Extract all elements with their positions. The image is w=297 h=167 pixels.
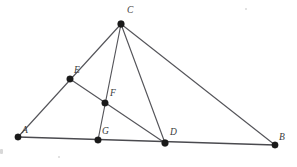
vertex-dot-a <box>15 134 21 140</box>
segment-ab <box>18 137 275 145</box>
vertex-label-d: D <box>170 128 177 138</box>
vertex-dots-group <box>15 21 278 149</box>
vertex-label-f: F <box>110 89 116 99</box>
vertex-dot-g <box>95 137 102 144</box>
vertex-dot-f <box>102 100 109 107</box>
scan-speck <box>245 8 247 10</box>
segment-cg <box>98 24 121 140</box>
segment-ed <box>70 79 165 143</box>
scan-speck <box>0 149 3 154</box>
vertex-label-e: E <box>74 66 80 76</box>
vertex-dot-b <box>272 142 278 148</box>
vertex-dot-e <box>67 76 74 83</box>
scan-speck <box>58 156 60 158</box>
edges-group <box>18 24 275 145</box>
diagram-canvas <box>0 0 297 167</box>
geometry-diagram: ABCDEFG <box>0 0 297 167</box>
vertex-dot-d <box>162 140 169 147</box>
segment-cb <box>121 24 275 145</box>
vertex-label-a: A <box>22 126 28 136</box>
vertex-label-b: B <box>279 133 285 143</box>
vertex-label-c: C <box>127 6 133 16</box>
vertex-dot-c <box>118 21 125 28</box>
vertex-label-g: G <box>102 127 109 137</box>
